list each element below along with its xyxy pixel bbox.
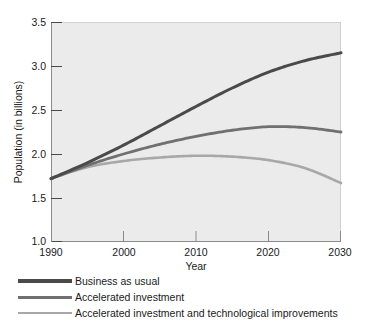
legend-color-swatch (18, 296, 72, 299)
y-axis-title: Population (in billions) (12, 81, 24, 184)
legend-item-business-as-usual: Business as usual (18, 273, 160, 289)
legend-color-swatch (18, 312, 72, 315)
y-tick-label: 1.5 (31, 192, 46, 204)
x-tick-label: 2010 (184, 246, 208, 258)
x-tick-label: 1990 (39, 246, 63, 258)
legend-item-label: Accelerated investment and technological… (75, 307, 338, 319)
y-tick-labels: 3.5 3.0 2.5 2.0 1.5 1.0 (31, 16, 46, 247)
figure-container: 3.5 3.0 2.5 2.0 1.5 1.0 1990 2000 2010 2… (0, 0, 371, 326)
line-chart: 3.5 3.0 2.5 2.0 1.5 1.0 1990 2000 2010 2… (0, 0, 371, 272)
legend-item-accelerated-investment-and-technological-improvements: Accelerated investment and technological… (18, 305, 338, 321)
legend-color-swatch (18, 279, 72, 282)
x-tick-label: 2000 (112, 246, 136, 258)
legend-item-label: Business as usual (75, 275, 160, 287)
plot-background (51, 22, 341, 242)
x-tick-label: 2020 (256, 246, 280, 258)
x-tick-labels: 1990 2000 2010 2020 2030 (39, 246, 352, 258)
y-tick-label: 3.5 (31, 16, 46, 28)
legend-item-label: Accelerated investment (75, 291, 184, 303)
y-tick-label: 3.0 (31, 60, 46, 72)
legend-item-accelerated-investment: Accelerated investment (18, 289, 184, 305)
chart-legend: Business as usual Accelerated investment… (0, 272, 371, 326)
x-tick-label: 2030 (328, 246, 352, 258)
y-tick-label: 2.5 (31, 104, 46, 116)
y-tick-label: 2.0 (31, 148, 46, 160)
x-axis-title: Year (185, 260, 207, 272)
